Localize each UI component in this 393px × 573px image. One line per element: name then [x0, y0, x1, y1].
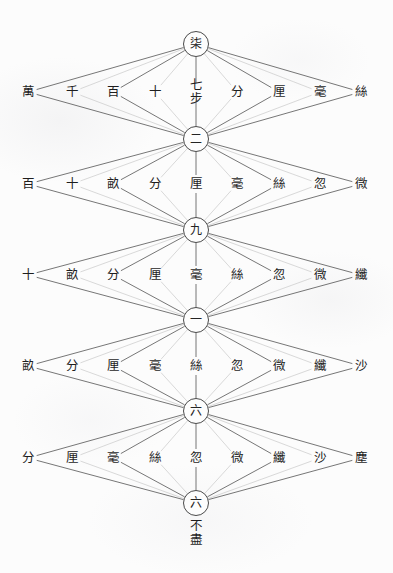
edge-lower — [205, 373, 231, 402]
unit-label-r2-c5: 厘 — [190, 177, 203, 190]
unit-label-r1-c3: 百 — [107, 85, 120, 98]
edge-upper — [205, 149, 231, 178]
edge-upper — [161, 149, 187, 178]
unit-label-r1-c1: 萬 — [22, 85, 35, 98]
edge-lower — [208, 461, 311, 498]
unit-label-r4-c7: 微 — [273, 359, 286, 372]
unit-label-r2-c8: 忽 — [314, 177, 327, 190]
edge-upper — [208, 234, 311, 271]
edge-upper — [205, 421, 232, 451]
edge-lower — [205, 191, 231, 221]
edge-upper — [205, 330, 231, 360]
edge-lower — [208, 187, 311, 225]
unit-label-r2-c7: 絲 — [273, 177, 286, 190]
edge-upper — [37, 415, 184, 456]
edge-upper — [208, 143, 311, 180]
edge-lower — [37, 186, 184, 226]
diagram-node-n5: 六 — [183, 490, 209, 516]
edge-lower — [205, 99, 232, 129]
diagram-node-n0: 柒 — [183, 31, 209, 57]
edge-lower — [80, 369, 183, 406]
node-tail-line: 盡 — [190, 533, 203, 547]
edge-lower — [161, 99, 188, 129]
node-label: 柒 — [190, 38, 202, 50]
edge-upper — [208, 48, 352, 90]
edge-lower — [37, 277, 184, 316]
unit-label-r3-c7: 忽 — [273, 268, 286, 281]
edge-upper — [161, 54, 188, 85]
edge-upper — [209, 415, 353, 456]
edge-lower — [209, 277, 353, 316]
edge-lower — [37, 460, 184, 499]
edge-lower — [209, 94, 353, 135]
node-label: 六 — [190, 405, 202, 417]
unit-label-r5-c7: 纖 — [273, 451, 286, 464]
edge-lower — [208, 278, 311, 315]
edge-lower — [37, 368, 184, 407]
node-label: 一 — [190, 314, 202, 326]
diagram-page: 柒二九一六六不盡 萬千百十七 步分厘毫絲百十畝分厘毫絲忽微十畝分厘毫絲忽微纖畝分… — [0, 0, 393, 573]
edge-upper — [207, 51, 271, 88]
edge-lower — [161, 282, 187, 311]
edge-lower — [161, 191, 187, 221]
edge-upper — [80, 416, 183, 455]
edge-lower — [161, 373, 187, 402]
edge-upper — [205, 240, 231, 269]
node-tail-line: 不 — [190, 519, 203, 533]
unit-label-r2-c4: 分 — [149, 177, 162, 190]
unit-label-r4-c5: 絲 — [190, 359, 203, 372]
edge-lower — [209, 186, 353, 226]
unit-label-r1-c7: 厘 — [273, 85, 286, 98]
edge-upper — [204, 54, 231, 85]
diagram-node-n2: 九 — [183, 217, 209, 243]
unit-label-r4-c6: 忽 — [231, 359, 244, 372]
unit-label-r4-c2: 分 — [66, 359, 79, 372]
edge-lower — [205, 465, 231, 494]
unit-label-r3-c3: 分 — [107, 268, 120, 281]
edge-upper — [161, 330, 187, 360]
unit-label-r2-c3: 畝 — [107, 177, 120, 190]
edge-lower — [161, 465, 187, 494]
edge-lower — [205, 282, 231, 311]
unit-label-r2-c1: 百 — [22, 177, 35, 190]
unit-label-r1-c8: 毫 — [314, 85, 327, 98]
edge-lower — [207, 96, 271, 132]
unit-label-r5-c1: 分 — [22, 451, 35, 464]
unit-label-r4-c4: 毫 — [149, 359, 162, 372]
unit-label-r5-c8: 沙 — [314, 451, 327, 464]
diagram-node-n4: 六 — [183, 398, 209, 424]
unit-label-r5-c2: 厘 — [66, 451, 79, 464]
node-label: 二 — [190, 133, 202, 145]
unit-label-r4-c8: 纖 — [314, 359, 327, 372]
unit-label-r1-c5: 七 步 — [190, 78, 203, 106]
node-label: 六 — [190, 497, 202, 509]
unit-label-r3-c6: 絲 — [231, 268, 244, 281]
edge-lower — [80, 95, 183, 134]
unit-label-r3-c8: 微 — [314, 268, 327, 281]
edge-lower — [37, 94, 184, 135]
unit-label-r5-c6: 微 — [231, 451, 244, 464]
unit-label-r5-c4: 絲 — [149, 451, 162, 464]
unit-label-r4-c3: 厘 — [107, 359, 120, 372]
unit-label-r4-c1: 畝 — [22, 359, 35, 372]
unit-label-r3-c5: 毫 — [190, 268, 203, 281]
edge-lower — [80, 461, 183, 498]
edge-lower — [80, 187, 183, 225]
edge-upper — [208, 325, 311, 363]
diagram-node-n1: 二 — [183, 126, 209, 152]
edge-lower — [209, 460, 353, 499]
edge-upper — [80, 325, 183, 363]
unit-label-r3-c4: 厘 — [149, 268, 162, 281]
unit-label-r2-c2: 十 — [66, 177, 79, 190]
unit-label-r1-c2: 千 — [66, 85, 79, 98]
unit-label-r1-c4: 十 — [149, 85, 162, 98]
unit-label-r4-c9: 沙 — [355, 359, 368, 372]
node-tail-buJin: 不盡 — [190, 519, 203, 548]
diagram-node-n3: 一 — [183, 307, 209, 333]
unit-label-r1-c6: 分 — [231, 85, 244, 98]
unit-label-r5-c3: 毫 — [107, 451, 120, 464]
edge-upper — [161, 240, 187, 269]
edge-lower — [208, 369, 311, 406]
edge-upper — [207, 417, 271, 453]
edge-upper — [208, 49, 311, 89]
